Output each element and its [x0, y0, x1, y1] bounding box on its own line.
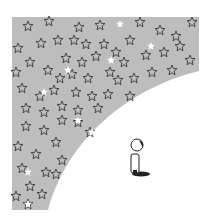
starry-sky-illustration [0, 0, 209, 223]
figure [131, 139, 150, 177]
